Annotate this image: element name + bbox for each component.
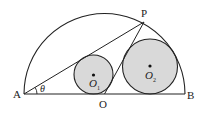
label-p: P: [141, 7, 147, 19]
geometry-diagram: A B O P θ O 1 O 2: [0, 0, 206, 116]
label-o1: O: [89, 77, 97, 89]
label-o1-subscript: 1: [97, 85, 100, 91]
label-theta: θ: [40, 83, 45, 94]
label-o: O: [99, 98, 107, 110]
center-dot-o2: [148, 64, 151, 67]
label-b: B: [187, 89, 194, 101]
label-a: A: [13, 88, 21, 100]
label-o2-subscript: 2: [153, 77, 156, 83]
label-o2: O: [145, 69, 153, 81]
diagram-svg: A B O P θ O 1 O 2: [0, 0, 206, 116]
angle-theta-arc: [35, 87, 37, 94]
